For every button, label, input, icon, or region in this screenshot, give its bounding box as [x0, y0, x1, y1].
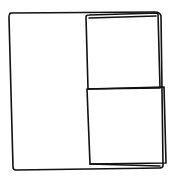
- top-right-panel-fold: [89, 16, 156, 18]
- bottom-right-panel: [87, 87, 166, 164]
- bottom-right-panel-edge: [90, 164, 160, 166]
- top-right-panel: [86, 13, 160, 89]
- wireframe-sketch: [0, 0, 177, 180]
